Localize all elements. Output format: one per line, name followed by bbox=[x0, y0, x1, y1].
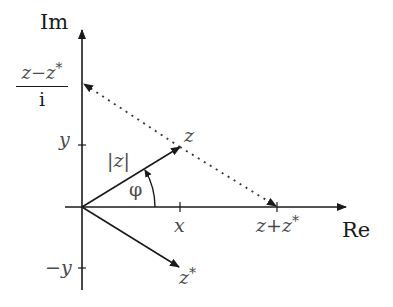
imaginary-axis-label: Im bbox=[40, 12, 68, 33]
angle-label: φ bbox=[129, 180, 142, 199]
fraction-denominator: i bbox=[16, 90, 68, 109]
y-tick-label: y bbox=[59, 130, 70, 149]
modulus-label: |z| bbox=[107, 151, 130, 170]
dotted-line-to-imag-point bbox=[84, 84, 180, 147]
sum-label: z+z* bbox=[256, 214, 299, 235]
real-axis-label: Re bbox=[342, 220, 370, 241]
diff-minus: − bbox=[31, 62, 46, 83]
z-conj-base: z bbox=[179, 266, 189, 288]
z-conj-star: * bbox=[189, 265, 196, 281]
z-conjugate-label: z* bbox=[179, 266, 196, 287]
neg-y-tick-label: −y bbox=[45, 258, 72, 277]
imaginary-point-label: z−z* i bbox=[16, 58, 68, 109]
fraction-bar bbox=[16, 86, 68, 87]
sum-star: * bbox=[292, 213, 299, 229]
dotted-line-to-real-point bbox=[180, 147, 276, 206]
diff-z: z bbox=[21, 62, 30, 83]
sum-z-conj: z bbox=[282, 214, 292, 236]
sum-z: z bbox=[256, 214, 266, 236]
complex-plane-diagram: Im Re z−z* i y −y x z z* z+z* |z| φ bbox=[0, 0, 393, 307]
diff-star: * bbox=[56, 60, 63, 76]
z-label: z bbox=[184, 126, 194, 145]
sum-plus: + bbox=[266, 214, 282, 236]
z-conjugate-vector bbox=[82, 207, 179, 267]
diff-z-conj: z bbox=[46, 62, 55, 83]
x-tick-label: x bbox=[174, 216, 185, 235]
angle-arc bbox=[145, 170, 155, 207]
